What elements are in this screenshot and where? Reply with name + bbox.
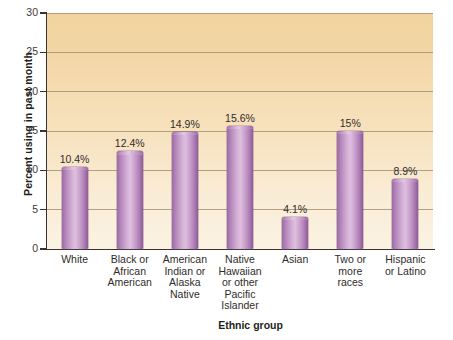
y-tick-mark: [40, 12, 47, 13]
y-tick-mark: [40, 130, 47, 131]
y-tick-label: 25: [12, 45, 38, 57]
bar[interactable]: [117, 151, 143, 249]
y-tick-label: 10: [12, 163, 38, 175]
bar[interactable]: [172, 132, 198, 249]
y-tick-label: 15: [12, 124, 38, 136]
y-tick-mark: [40, 91, 47, 92]
bar[interactable]: [392, 179, 418, 249]
y-tick-label: 5: [12, 203, 38, 215]
bar-value-label: 15%: [320, 117, 380, 129]
y-tick-mark: [40, 209, 47, 210]
x-axis-title: Ethnic group: [0, 319, 453, 331]
y-tick-mark: [40, 248, 47, 249]
bar[interactable]: [337, 131, 363, 249]
x-category-label-line: Islander: [204, 300, 276, 312]
bar-column[interactable]: 14.9%: [172, 13, 198, 249]
y-tick-label: 30: [12, 6, 38, 18]
bar-value-label: 14.9%: [155, 118, 215, 130]
bar-column[interactable]: 15.6%: [227, 13, 253, 249]
bar-column[interactable]: 4.1%: [282, 13, 308, 249]
x-category-label-line: races: [314, 277, 386, 289]
bar-column[interactable]: 8.9%: [392, 13, 418, 249]
bar-value-label: 8.9%: [375, 165, 435, 177]
bar-column[interactable]: 10.4%: [62, 13, 88, 249]
bar[interactable]: [227, 126, 253, 249]
x-category-label-line: or Latino: [369, 266, 441, 278]
bar-column[interactable]: 12.4%: [117, 13, 143, 249]
bar[interactable]: [62, 167, 88, 249]
x-category-label: Hispanicor Latino: [369, 254, 441, 277]
bar-value-label: 15.6%: [210, 112, 270, 124]
bar-chart: Percent using in past month 051015202530…: [0, 0, 453, 340]
bar-column[interactable]: 15%: [337, 13, 363, 249]
y-tick-label: 20: [12, 85, 38, 97]
x-axis-line: [46, 249, 435, 250]
bar-value-label: 4.1%: [265, 203, 325, 215]
y-tick-mark: [40, 52, 47, 53]
bar-value-label: 10.4%: [45, 153, 105, 165]
bar-value-label: 12.4%: [100, 137, 160, 149]
x-category-label-line: Hispanic: [369, 254, 441, 266]
y-tick-label: 0: [12, 242, 38, 254]
y-tick-mark: [40, 170, 47, 171]
x-axis-title-text: Ethnic group: [218, 319, 283, 331]
bar[interactable]: [282, 217, 308, 249]
